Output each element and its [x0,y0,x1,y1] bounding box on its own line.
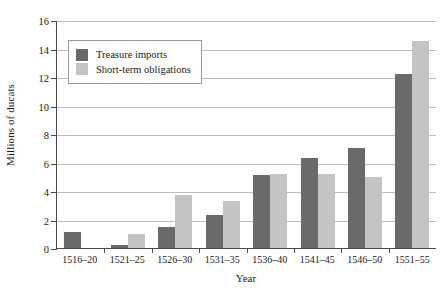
bar-group [247,21,294,248]
y-axis-title: Millions of ducats [2,0,18,250]
bar-group [389,21,436,248]
x-axis-tick [294,248,295,253]
bar [270,174,287,248]
legend-item: Treasure imports [76,49,191,61]
x-axis-tick-label: 1521–25 [104,254,152,270]
y-axis-title-text: Millions of ducats [4,84,16,166]
bar [395,74,412,248]
bar [158,227,175,248]
bar [253,175,270,248]
x-axis-tick-label: 1526–30 [151,254,199,270]
bar [111,245,128,248]
bar [348,148,365,248]
x-axis-tick [104,248,105,253]
y-axis-tick-label: 6 [44,158,49,169]
y-axis-tick-label: 2 [44,215,49,226]
bar-group [294,21,341,248]
bar-group [199,21,246,248]
x-axis-tick [341,248,342,253]
x-axis-title: Year [56,272,436,284]
x-axis-tick-label: 1546–50 [341,254,389,270]
x-axis-tick-label: 1541–45 [294,254,342,270]
x-axis-tick-label: 1516–20 [56,254,104,270]
legend-label-short-term-obligations: Short-term obligations [96,64,191,75]
legend-swatch-treasure-imports [76,49,88,61]
bar [223,201,240,248]
y-axis-tick-label: 14 [39,44,50,55]
bar [206,215,223,248]
y-axis-tick-label: 16 [39,16,50,27]
bar [301,158,318,248]
y-axis-tick-label: 4 [44,187,49,198]
bar [175,195,192,248]
bar [64,232,81,248]
bar [128,234,145,248]
y-axis-tick-label: 12 [39,73,50,84]
bar [412,41,429,248]
x-axis-tick-labels: 1516–201521–251526–301531–351536–401541–… [56,254,436,270]
y-axis-tick-label: 0 [44,244,49,255]
x-axis-tick-label: 1551–55 [389,254,437,270]
y-axis-tick [51,249,57,250]
x-axis-tick-label: 1536–40 [246,254,294,270]
bar [365,177,382,248]
bar-group [341,21,388,248]
legend-swatch-short-term-obligations [76,63,88,75]
bar-chart-figure: Millions of ducats 0246810121416 1516–20… [0,0,444,298]
legend: Treasure imports Short-term obligations [68,40,202,84]
legend-label-treasure-imports: Treasure imports [96,49,167,60]
x-axis-tick [152,248,153,253]
bar [318,174,335,248]
x-axis-tick [389,248,390,253]
legend-item: Short-term obligations [76,63,191,75]
x-axis-tick [199,248,200,253]
x-axis-tick [247,248,248,253]
x-axis-tick-label: 1531–35 [199,254,247,270]
y-axis-tick-label: 8 [44,130,49,141]
y-axis-tick-label: 10 [39,101,50,112]
